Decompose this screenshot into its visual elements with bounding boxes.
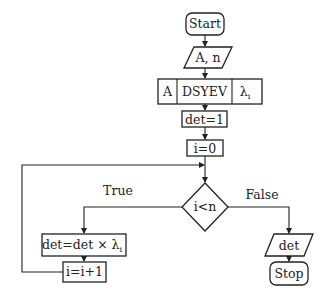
input-node: A, n	[184, 47, 232, 68]
false-branch-label: False	[245, 187, 278, 202]
dsyev-node: A DSYEV λi	[158, 79, 262, 104]
dsyev-label: DSYEV	[182, 84, 228, 99]
start-node: Start	[186, 13, 224, 35]
det-update-label: det=det × λi	[42, 237, 123, 254]
true-branch-label: True	[103, 183, 133, 198]
decision-node: i<n	[182, 183, 228, 231]
edge-true	[84, 207, 182, 233]
stop-label: Stop	[274, 266, 303, 281]
output-node: det	[265, 234, 313, 256]
dsyev-input-label: A	[162, 84, 173, 99]
i-init-label: i=0	[194, 141, 216, 156]
det-update-node: det=det × λi	[42, 234, 126, 256]
input-label: A, n	[194, 50, 220, 65]
i-increment-label: i=i+1	[66, 264, 103, 279]
stop-node: Stop	[270, 262, 308, 285]
det-init-node: det=1	[182, 111, 227, 127]
i-increment-node: i=i+1	[63, 262, 106, 282]
i-init-node: i=0	[187, 140, 223, 156]
output-label: det	[279, 238, 299, 253]
flowchart: Start A, n A DSYEV λi det=1 i=0 i<n True…	[0, 0, 330, 302]
decision-label: i<n	[194, 199, 217, 214]
start-label: Start	[189, 16, 221, 31]
edge-false	[228, 207, 289, 233]
det-init-label: det=1	[185, 112, 224, 127]
